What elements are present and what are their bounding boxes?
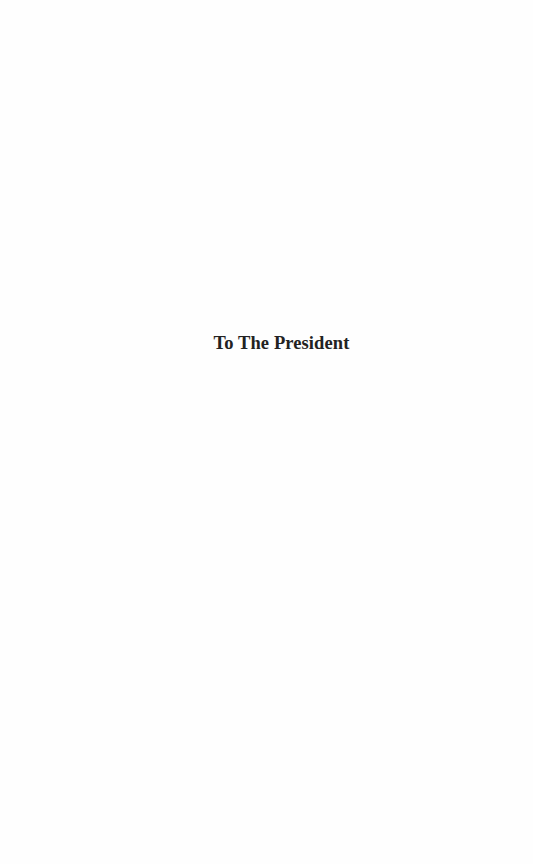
- dedication-heading: To The President: [0, 331, 533, 355]
- document-page: To The President: [0, 0, 533, 864]
